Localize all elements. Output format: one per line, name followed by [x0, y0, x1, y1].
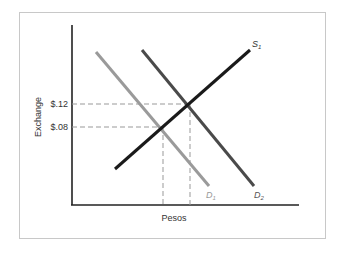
y-axis-label: Exchange [33, 97, 43, 137]
y-tick-008: $.08 [50, 122, 68, 132]
label-s1-sub: 1 [258, 44, 261, 50]
y-tick-012: $.12 [50, 99, 68, 109]
label-s1: S1 [252, 39, 261, 50]
supply-demand-chart: $.12 $.08 Exchange Pesos S1 D1 D2 [0, 0, 343, 253]
label-d2-sub: 2 [260, 195, 265, 201]
label-d1-sub: 1 [213, 195, 216, 201]
label-d1: D1 [206, 190, 216, 201]
supply-curve-s1 [115, 50, 250, 169]
x-axis-label: Pesos [161, 213, 187, 223]
demand-curve-d1 [96, 52, 209, 186]
label-d2: D2 [254, 190, 265, 201]
demand-curve-d2 [142, 50, 254, 186]
